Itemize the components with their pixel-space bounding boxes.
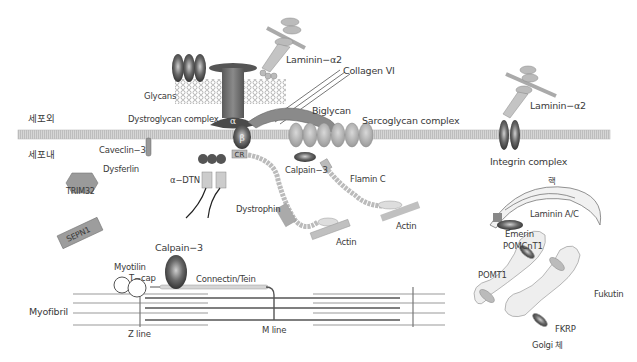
laminin-alpha2-top-label: Laminin−α2: [286, 55, 342, 65]
pomt1-label: POMT1: [478, 271, 507, 280]
laminin-ac-label: Laminin A/C: [530, 210, 579, 219]
dystroglycan-beta-icon: β CR: [232, 125, 251, 159]
fukutin-label: Fukutin: [594, 290, 624, 299]
connectin-label: Connectin/Tein: [196, 275, 256, 284]
region-extracellular-label: 세포외: [28, 114, 54, 124]
muscle-protein-diagram: α β CR: [0, 0, 637, 362]
myotilin-label: Myotilin: [114, 263, 146, 272]
t-cap-label: T−cap: [129, 274, 156, 283]
glycans-icon: [172, 54, 206, 82]
dysferlin-label: Dysferlin: [103, 165, 139, 174]
laminin-alpha2-right-label: Laminin−α2: [530, 101, 586, 111]
z-line-label: Z line: [128, 330, 151, 339]
caveolin-3-label: Caveclin−3: [99, 146, 146, 155]
filamin-c-icon: [294, 152, 420, 222]
emerin-label: Emerin: [505, 230, 534, 239]
myofibril-label: Myofibril: [29, 307, 68, 317]
fkrp-label: FKRP: [555, 325, 576, 334]
dystroglycan-complex-label: Dystroglycan complex: [128, 115, 219, 124]
syntrophin-icon: [186, 154, 226, 218]
collagen-vi-label: Collagen VI: [343, 66, 395, 76]
actin-right-label: Actin: [396, 222, 416, 231]
sarcoglycan-complex-label: Sarcoglycan complex: [362, 116, 459, 126]
svg-text:α: α: [230, 116, 236, 126]
region-intracellular-label: 세포내: [28, 150, 54, 160]
golgi-label: Golgi 체: [532, 341, 563, 350]
m-line-label: M line: [262, 326, 286, 335]
trim32-label: TRIM32: [66, 188, 95, 196]
pomgnt1-label: POMCnT1: [503, 242, 543, 251]
svg-text:β: β: [239, 133, 244, 143]
calpain-3-myofibril-label: Calpain−3: [155, 243, 203, 253]
svg-text:CR: CR: [235, 151, 245, 159]
laminin-alpha2-top-icon: [260, 18, 305, 79]
dystrophin-label: Dystrophin: [236, 205, 280, 214]
filamin-c-label: Flamin C: [350, 175, 386, 184]
calpain-3-membrane-label: Calpain−3: [285, 166, 328, 175]
nucleus-label: 핵: [548, 177, 556, 186]
biglycan-label: Biglycan: [312, 106, 351, 116]
dysferlin-icon: [146, 138, 151, 156]
actin-left-label: Actin: [336, 238, 356, 247]
integrin-complex-label: Integrin complex: [490, 157, 567, 167]
glycans-label: Glycans: [144, 92, 176, 101]
alpha-dtn-label: α−DTN: [170, 176, 200, 185]
